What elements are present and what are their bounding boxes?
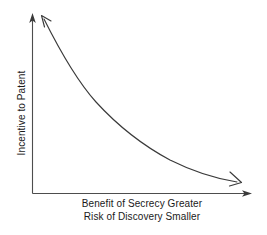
curve-end-arrowhead-icon [230,172,242,186]
x-axis-label-line-1: Benefit of Secrecy Greater [32,197,252,210]
x-axis-label: Benefit of Secrecy Greater Risk of Disco… [32,197,252,223]
decay-curve [42,16,242,187]
curve-path [44,19,237,182]
x-axis-label-line-2: Risk of Discovery Smaller [32,210,252,223]
y-axis-label: Incentive to Patent [15,48,29,178]
curve-start-arrowhead-icon [42,16,52,28]
vertical-axis [29,13,36,194]
horizontal-axis [33,190,253,197]
chart-figure: Incentive to Patent Benefit of Secrecy G… [0,0,267,235]
